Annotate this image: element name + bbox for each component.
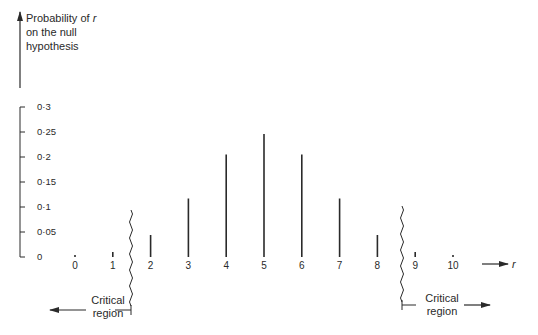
y-tick-label: 0·05 xyxy=(37,226,56,237)
x-tick-label: 1 xyxy=(110,260,116,271)
x-tick-label: 0 xyxy=(72,260,78,271)
ylabel-line-1: Probability of xyxy=(26,12,93,24)
x-axis-arrow: r xyxy=(482,258,517,270)
x-tick-label: 8 xyxy=(375,260,381,271)
critical-boundary-left xyxy=(130,210,133,306)
ylabel-variable: r xyxy=(93,12,98,24)
critical-boundary-right xyxy=(401,206,404,302)
x-tick-label: 10 xyxy=(447,260,459,271)
binomial-probability-chart: Probability of r on the null hypothesis … xyxy=(0,0,538,335)
x-axis-label: r xyxy=(512,258,517,270)
critical-region-right: Critical region xyxy=(402,292,490,317)
ylabel-line-3: hypothesis xyxy=(26,40,79,52)
x-tick-label: 5 xyxy=(261,260,267,271)
critical-region-left: Critical region xyxy=(50,294,131,319)
svg-text:Probability of r: Probability of r xyxy=(26,12,98,24)
critical-region-left-line-2: region xyxy=(93,307,124,319)
ylabel-line-2: on the null xyxy=(26,26,77,38)
y-tick-label: 0·1 xyxy=(37,201,51,212)
x-tick-label: 4 xyxy=(223,260,229,271)
x-tick-label: 7 xyxy=(337,260,343,271)
y-axis-label: Probability of r on the null hypothesis xyxy=(26,12,98,52)
critical-region-left-line-1: Critical xyxy=(91,294,125,306)
y-tick-label: 0 xyxy=(37,251,42,262)
y-tick-label: 0·3 xyxy=(37,101,51,112)
y-tick-label: 0·15 xyxy=(37,176,56,187)
critical-region-right-line-1: Critical xyxy=(425,292,459,304)
bars xyxy=(75,134,453,257)
x-tick-label: 6 xyxy=(299,260,305,271)
y-tick-label: 0·2 xyxy=(37,151,51,162)
y-tick-label: 0·25 xyxy=(37,126,56,137)
x-tick-label: 9 xyxy=(412,260,418,271)
y-axis: 00·050·10·150·20·250·3 xyxy=(20,101,56,262)
critical-region-right-line-2: region xyxy=(427,305,458,317)
x-tick-label: 3 xyxy=(186,260,192,271)
x-tick-label: 2 xyxy=(148,260,154,271)
